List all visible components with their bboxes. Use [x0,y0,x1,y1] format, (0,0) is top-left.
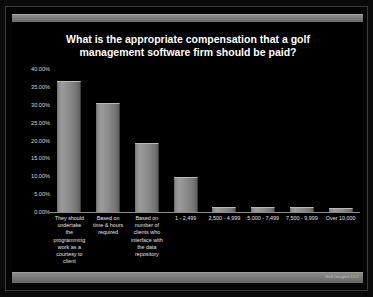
bar-slot [50,69,89,212]
y-axis-tick-label: 35.00% [4,84,50,90]
y-axis-tick-label: 10.00% [4,173,50,179]
bar[interactable] [251,207,275,212]
bar[interactable] [174,177,198,212]
bar-slot [166,69,205,212]
y-axis-tick-label: 15.00% [4,155,50,161]
x-axis-category-label: 1 - 2,499 [166,215,205,222]
plot-area: 40.00%35.00%30.00%25.00%20.00%15.00%10.0… [12,22,363,274]
watermark-text: Golf Insights LLC [325,274,359,279]
x-axis-category-label: Based on time & hours required [89,215,128,237]
y-axis-tick-label: 40.00% [4,66,50,72]
bar-slot [283,69,322,212]
y-axis-tick-label: 0.00% [4,209,50,215]
bar-slot [321,69,360,212]
slide-bottom-chrome-bar: Golf Insights LLC [12,272,363,283]
bar-slot [128,69,167,212]
slide-frame: What is the appropriate compensation tha… [5,6,368,291]
chart-canvas: What is the appropriate compensation tha… [12,22,363,274]
bar[interactable] [290,207,314,212]
x-axis-category-label: Based on number of clients who interface… [128,215,167,258]
y-axis-tick-label: 20.00% [4,138,50,144]
x-axis-labels: They should undertake the programming wo… [50,215,360,265]
x-axis-category-label: 5,000 - 7,499 [244,215,283,222]
y-axis-tick-label: 5.00% [4,191,50,197]
x-axis-category-label: 7,500 - 9,999 [283,215,322,222]
x-axis-category-label: Over 10,000 [321,215,360,222]
y-axis-tick-label: 25.00% [4,120,50,126]
bar-series [50,69,360,212]
bar[interactable] [135,143,159,212]
y-axis-tick-label: 30.00% [4,102,50,108]
x-axis-line [50,212,360,213]
x-axis-category-label: They should undertake the programming wo… [50,215,89,265]
bar[interactable] [212,207,236,212]
bar[interactable] [96,103,120,212]
bar-slot [205,69,244,212]
bar[interactable] [329,208,353,212]
bar[interactable] [57,81,81,212]
x-axis-category-label: 2,500 - 4,999 [205,215,244,222]
bar-slot [244,69,283,212]
bar-slot [89,69,128,212]
slide-top-chrome-bar [12,14,363,22]
